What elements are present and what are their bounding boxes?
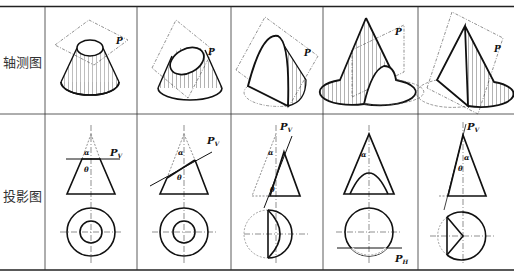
pv-label: PV (279, 121, 294, 133)
plane-label: P (207, 47, 215, 57)
theta-label: θ (458, 164, 463, 173)
ph-label: PH (394, 253, 409, 265)
plane-label: P (493, 44, 501, 54)
plane-label: P (303, 48, 311, 58)
pv-label: PV (206, 135, 221, 147)
axo-cone-circle: P (55, 20, 128, 95)
plane-label: P (394, 27, 402, 37)
alpha-label: α (84, 148, 90, 157)
axo-cone-triangle: P (417, 12, 514, 114)
theta-label: θ (270, 185, 275, 194)
pv-label: PV (466, 121, 481, 133)
axo-cone-parabola: P (236, 17, 318, 108)
table-grid: P P P P P (0, 0, 514, 272)
alpha-label: α (464, 153, 470, 162)
row-label-projection: 投影图 (0, 186, 45, 205)
axo-cone-ellipse: P (152, 20, 222, 100)
row-label-axonometric: 轴测图 (0, 52, 45, 71)
pv-label: PV (109, 147, 124, 159)
proj-triangle-section: α θ PV (430, 121, 496, 265)
theta-label: θ (84, 165, 89, 174)
plane-label: P (115, 36, 123, 46)
proj-hyperbola-section: α PH (336, 125, 409, 265)
axo-cone-hyperbola: P (320, 18, 424, 105)
alpha-label: α (361, 150, 367, 159)
proj-ellipse-section: α θ PV (150, 125, 221, 265)
alpha-label: α (178, 148, 184, 157)
cone-section-table: P P P P P (0, 0, 514, 272)
proj-circle-section: α θ PV (60, 125, 124, 265)
theta-label: θ (177, 173, 182, 182)
proj-parabola-section: α θ PV (244, 121, 308, 265)
alpha-label: α (268, 148, 274, 157)
